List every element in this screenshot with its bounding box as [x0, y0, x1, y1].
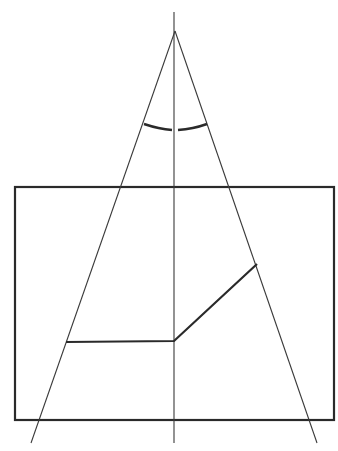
- diagram-canvas: [0, 0, 338, 451]
- geometry-diagram: [0, 0, 338, 451]
